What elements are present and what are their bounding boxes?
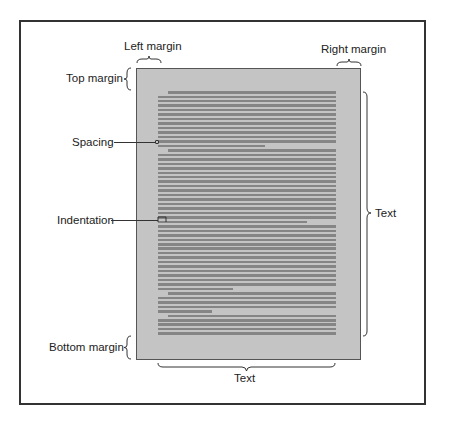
text-line: [158, 230, 336, 233]
spacing-marker: [155, 140, 159, 144]
text-line: [158, 167, 336, 170]
top-margin-brace: [124, 67, 132, 91]
text-line: [158, 194, 336, 197]
text-line: [158, 239, 336, 242]
text-line: [158, 172, 336, 175]
text-line: [158, 270, 336, 273]
text-line: [158, 180, 336, 183]
right-margin-label: Right margin: [321, 43, 386, 55]
text-line: [158, 198, 336, 201]
text-line: [158, 225, 336, 228]
text-line: [158, 221, 307, 224]
left-margin-label: Left margin: [124, 40, 182, 52]
text-line: [158, 301, 336, 304]
text-line: [158, 252, 336, 255]
text-line: [158, 247, 336, 250]
text-line: [158, 323, 336, 326]
text-line: [158, 122, 336, 125]
text-line: [158, 140, 336, 143]
indentation-marker: [157, 216, 167, 222]
text-line: [158, 243, 336, 246]
text-line: [158, 136, 336, 139]
text-line: [158, 163, 336, 166]
text-width-label: Text: [234, 372, 255, 384]
text-line: [158, 319, 336, 322]
text-line: [158, 113, 336, 116]
bottom-margin-label: Bottom margin: [49, 341, 124, 353]
text-line: [158, 100, 336, 103]
text-line: [158, 203, 336, 206]
text-line: [158, 234, 336, 237]
text-line: [158, 288, 233, 291]
text-line: [158, 104, 336, 107]
text-line: [158, 283, 336, 286]
right-margin-brace: [336, 59, 362, 67]
text-line: [158, 158, 336, 161]
top-margin-label: Top margin: [66, 72, 123, 84]
text-line: [158, 212, 336, 215]
left-margin-brace: [136, 56, 162, 64]
text-line: [158, 279, 336, 282]
text-line: [158, 154, 336, 157]
text-line: [158, 189, 336, 192]
text-line: [158, 256, 336, 259]
text-line: [158, 145, 265, 148]
text-line: [158, 176, 336, 179]
text-height-brace: [362, 91, 372, 337]
text-line: [158, 310, 212, 313]
text-line: [158, 274, 336, 277]
text-line: [158, 185, 336, 188]
bottom-margin-brace: [124, 335, 132, 360]
text-line: [158, 265, 336, 268]
indentation-label: Indentation: [57, 214, 114, 226]
indentation-leader: [111, 220, 158, 221]
text-line: [158, 328, 336, 331]
text-line: [158, 261, 336, 264]
text-line: [158, 216, 336, 219]
spacing-leader: [114, 142, 155, 143]
text-line: [168, 91, 336, 94]
text-line: [168, 292, 336, 295]
text-line: [158, 131, 336, 134]
text-line: [158, 207, 336, 210]
text-height-label: Text: [375, 207, 396, 219]
text-line: [158, 306, 336, 309]
text-line: [158, 118, 336, 121]
text-line: [168, 315, 336, 318]
text-line: [158, 127, 336, 130]
text-line: [158, 297, 336, 300]
text-line: [158, 96, 336, 99]
text-line: [158, 332, 336, 335]
text-line: [168, 149, 336, 152]
text-width-brace: [157, 362, 337, 372]
spacing-label: Spacing: [72, 136, 114, 148]
text-line: [158, 109, 336, 112]
